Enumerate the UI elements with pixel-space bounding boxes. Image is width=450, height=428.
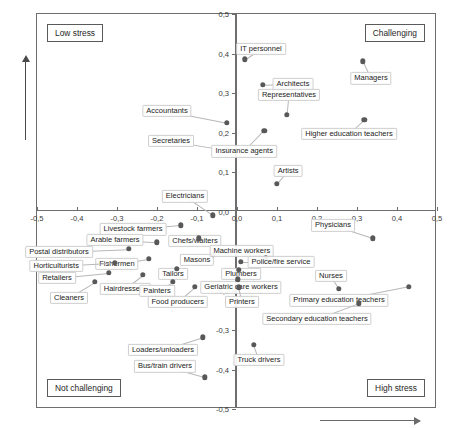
data-point-label: Food producers [148,295,209,307]
y-tick-mark [232,409,236,410]
data-point[interactable] [126,246,131,251]
data-point[interactable] [274,181,279,186]
quadrant-label-high-stress: High stress [367,379,425,397]
y-tick-mark [232,172,236,173]
data-point-label: Postal distributors [25,246,93,258]
y-tick-label: 0,1 [218,168,229,177]
horizontal-axis [37,210,435,211]
data-point-label: Police/fire service [248,256,315,268]
data-point-label: Printers [225,295,259,307]
data-point[interactable] [154,240,159,245]
data-point-label: Higher education teachers [301,128,397,140]
data-point[interactable] [370,236,375,241]
x-tick-mark [237,207,238,211]
data-point-label: Arable farmers [86,234,143,246]
x-tick-mark [357,207,358,211]
data-point[interactable] [251,342,256,347]
y-tick-label: 0,4 [218,49,229,58]
data-point-label: Truck drivers [233,354,284,366]
data-point[interactable] [336,286,341,291]
data-point[interactable] [238,259,243,264]
data-point[interactable] [261,128,266,133]
data-point-label: Geriatric care workers [200,281,281,293]
data-point[interactable] [106,270,111,275]
data-point[interactable] [406,284,411,289]
data-point[interactable] [210,213,215,218]
data-point-label: Bus/train drivers [134,360,196,372]
data-point[interactable] [284,112,289,117]
x-tick-label: 0,4 [392,214,403,223]
y-tick-mark [232,14,236,15]
x-tick-label: -0,1 [190,214,203,223]
data-point-label: Retailers [38,272,76,284]
data-point[interactable] [170,279,175,284]
data-point[interactable] [92,279,97,284]
quadrant-label-challenging: Challenging [365,24,425,42]
data-point-label: Cleaners [50,291,88,303]
data-point-label: Primary education teachers [289,294,388,306]
data-point-label: Accountants [142,105,191,117]
data-point[interactable] [202,375,207,380]
x-tick-mark [197,207,198,211]
scatter-chart: Aggregate of autonomy of time, social su… [0,0,450,428]
data-point-label: Loaders/unloaders [128,344,198,356]
y-tick-label: 0,5 [218,10,229,19]
y-tick-label: -0,5 [216,405,229,414]
data-point[interactable] [360,59,365,64]
data-point[interactable] [146,256,151,261]
x-tick-mark [37,207,38,211]
data-point-label: IT personnel [236,43,286,55]
x-tick-label: -0,4 [70,214,83,223]
x-tick-label: 0,0 [232,214,243,223]
data-point-label: Managers [350,72,391,84]
x-tick-label: -0,3 [110,214,123,223]
data-point[interactable] [200,334,205,339]
y-tick-mark [232,93,236,94]
y-tick-label: 0,2 [218,128,229,137]
y-tick-mark [232,330,236,331]
data-point[interactable] [242,57,247,62]
data-point-label: Artists [274,165,303,177]
x-tick-mark [437,207,438,211]
y-tick-mark [232,133,236,134]
y-tick-label: -0,3 [216,326,229,335]
y-tick-label: 0,0 [218,207,229,216]
y-tick-label: -0,4 [216,365,229,374]
x-axis-direction-arrow [320,420,420,421]
data-point-label: Physicians [311,219,355,231]
x-tick-label: 0,1 [272,214,283,223]
data-point[interactable] [361,117,366,122]
y-axis-direction-arrow [25,60,26,140]
x-tick-mark [157,207,158,211]
data-point[interactable] [260,82,265,87]
x-tick-mark [277,207,278,211]
y-tick-mark [232,370,236,371]
x-tick-mark [317,207,318,211]
data-point-label: Electricians [162,190,208,202]
plot-area: -0,5-0,4-0,3-0,2-0,10,00,10,20,30,40,5 0… [36,13,436,408]
y-tick-label: 0,3 [218,89,229,98]
x-tick-label: 0,5 [432,214,443,223]
x-tick-mark [397,207,398,211]
x-tick-mark [77,207,78,211]
quadrant-label-not-challenging: Not challenging [47,379,121,397]
data-point[interactable] [192,284,197,289]
data-point-label: Nurses [315,270,347,282]
data-point-label: Insurance agents [211,145,277,157]
data-point-label: Secretaries [148,135,194,147]
data-point-label: Secondary education teachers [262,313,371,325]
quadrant-label-low-stress: Low stress [47,24,103,42]
data-point-label: Horticulturists [29,260,82,272]
data-point[interactable] [224,120,229,125]
x-tick-label: -0,5 [30,214,43,223]
x-tick-mark [117,207,118,211]
data-point[interactable] [178,223,183,228]
x-tick-label: -0,2 [150,214,163,223]
data-point[interactable] [140,272,145,277]
data-point-label: Representatives [258,89,320,101]
